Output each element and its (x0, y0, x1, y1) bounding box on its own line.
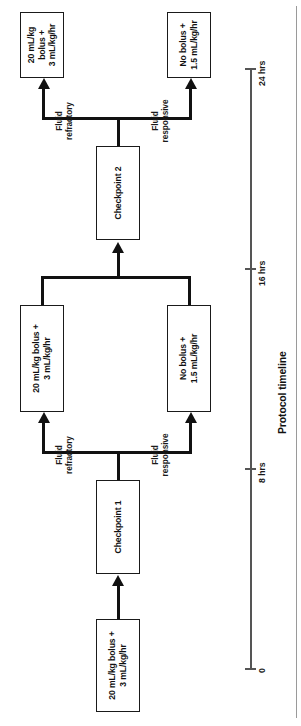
timeline-tick-label-24: 24 hrs (257, 61, 267, 86)
node-start: 20 mL/kg bolus + 3 mL/kg/hr (96, 619, 140, 712)
edge-label-checkpoint1-responsive: Fluid responsive (150, 417, 171, 493)
timeline-axis (250, 70, 252, 670)
timeline-tick-0 (245, 668, 256, 670)
node-checkpoint1-responsive-output: No bolus + 1.5 mL/kg/hr (167, 305, 211, 412)
connector-checkpoint1-refractory (42, 419, 45, 454)
node-checkpoint2: Checkpoint 2 (96, 146, 140, 240)
divider (296, 6, 297, 718)
edge-label-checkpoint2-responsive: Fluid responsive (150, 83, 171, 159)
arrowhead-start-to-checkpoint1 (112, 575, 124, 586)
timeline-tick-16 (245, 268, 256, 270)
protocol-flowchart: 20 mL/kg bolus + 3 mL/kg/hr Checkpoint 1… (0, 0, 301, 726)
timeline-tick-label-16: 16 hrs (257, 261, 267, 286)
timeline-tick-24 (245, 68, 256, 70)
connector-checkpoint2-split-stem (117, 118, 120, 146)
connector-checkpoint1-responsive (189, 419, 192, 454)
timeline-title: Protocol timeline (277, 351, 288, 434)
node-checkpoint1: Checkpoint 1 (96, 480, 140, 574)
arrowhead-checkpoint2-responsive (185, 78, 197, 89)
connector-merge-riser (41, 276, 191, 279)
timeline-tick-8 (245, 468, 256, 470)
timeline-tick-label-0: 0 (257, 668, 267, 673)
connector-start-to-checkpoint1 (117, 583, 120, 619)
arrowhead-checkpoint2-refractory (38, 78, 50, 89)
connector-checkpoint2-responsive (189, 85, 192, 120)
node-checkpoint1-refractory-output: 20 mL/kg bolus + 3 mL/kg/hr (20, 305, 64, 412)
connector-checkpoint1-split-stem (117, 452, 120, 480)
arrowhead-checkpoint1-responsive (185, 412, 197, 423)
edge-label-checkpoint1-refractory: Fluid refractory (54, 417, 75, 493)
arrowhead-checkpoint1-refractory (38, 412, 50, 423)
connector-merge-to-checkpoint2 (117, 249, 120, 279)
timeline-tick-label-8: 8 hrs (257, 462, 267, 483)
edge-label-checkpoint2-refractory: Fluid refractory (54, 83, 75, 159)
connector-checkpoint2-refractory (42, 85, 45, 120)
connector-responsive-to-merge (188, 277, 191, 305)
figure-canvas: 20 mL/kg bolus + 3 mL/kg/hr Checkpoint 1… (0, 0, 301, 726)
node-checkpoint2-responsive-output: No bolus + 1.5 mL/kg/hr (167, 12, 211, 78)
connector-refractory-to-merge (41, 277, 44, 305)
node-checkpoint2-refractory-output: 20 mL/kg bolus + 3 mL/kg/hr (20, 12, 64, 78)
arrowhead-merge-to-checkpoint2 (112, 242, 124, 253)
